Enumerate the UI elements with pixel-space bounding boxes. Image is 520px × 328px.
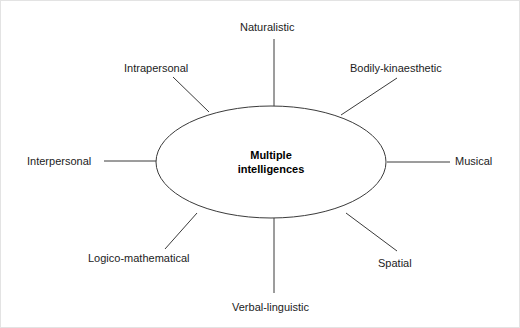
diagram-canvas: Multiple intelligences Naturalistic Intr…	[0, 0, 520, 328]
connector-intrapersonal	[173, 77, 209, 112]
node-label-logico-mathematical: Logico-mathematical	[88, 252, 190, 265]
connector-logico-mathematical	[165, 213, 197, 249]
connector-spatial	[346, 213, 397, 251]
connector-bodily-kinaesthetic	[341, 78, 397, 115]
node-label-interpersonal: Interpersonal	[27, 155, 91, 168]
node-label-bodily-kinaesthetic: Bodily-kinaesthetic	[350, 62, 442, 75]
node-label-spatial: Spatial	[378, 257, 412, 270]
node-label-intrapersonal: Intrapersonal	[124, 62, 188, 75]
center-node-label-line1: Multiple	[201, 148, 341, 162]
center-node-label: Multiple intelligences	[201, 148, 341, 176]
node-label-verbal-linguistic: Verbal-linguistic	[232, 301, 309, 314]
node-label-musical: Musical	[455, 155, 492, 168]
center-node-label-line2: intelligences	[201, 162, 341, 176]
node-label-naturalistic: Naturalistic	[240, 21, 294, 34]
